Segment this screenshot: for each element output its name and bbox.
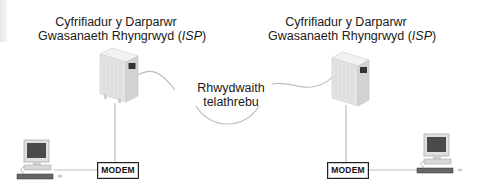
modem-left: MODEM <box>97 162 139 179</box>
isp-label-line1: Cyfrifiadur y Darparwr <box>268 15 424 29</box>
isp-label-line1: Cyfrifiadur y Darparwr <box>38 15 194 29</box>
server-icon-left <box>100 48 138 103</box>
computer-icon-left <box>17 140 63 179</box>
computer-icon-right <box>417 134 463 173</box>
isp-label-line2: Gwasanaeth Rhyngrwyd (ISP) <box>268 29 424 43</box>
isp-server-label-right: Cyfrifiadur y Darparwr Gwasanaeth Rhyngr… <box>268 15 424 43</box>
isp-server-label-left: Cyfrifiadur y Darparwr Gwasanaeth Rhyngr… <box>38 15 194 43</box>
modem-right: MODEM <box>327 162 369 179</box>
server-icon-right <box>332 52 369 106</box>
network-label: Rhwydwaith telathrebu <box>196 81 266 109</box>
isp-label-line2: Gwasanaeth Rhyngrwyd (ISP) <box>38 29 194 43</box>
